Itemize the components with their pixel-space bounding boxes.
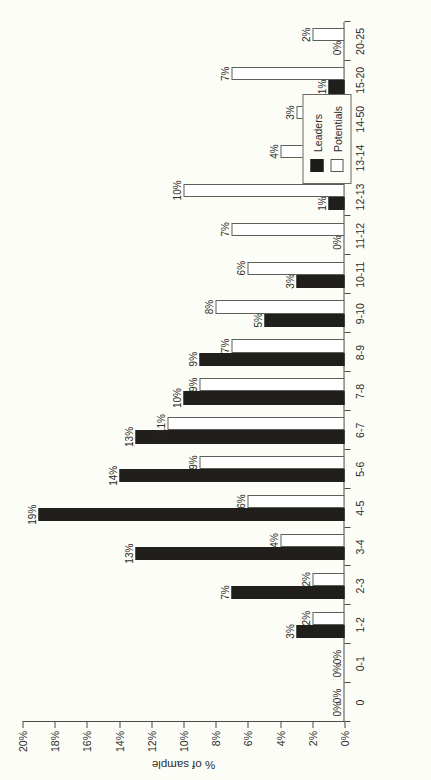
legend-swatch-potentials	[330, 159, 343, 172]
bar-potentials-9-10[interactable]: 8%	[215, 300, 344, 313]
bar-group: 5%8%	[215, 294, 344, 333]
category-axis-tick	[344, 643, 350, 644]
bar-group: 3%6%	[247, 255, 344, 294]
value-axis-tick-label: 14%	[113, 731, 125, 752]
category-axis-label: 1-2	[353, 617, 365, 632]
value-axis-tick	[183, 722, 184, 728]
category-axis-label: 5-6	[353, 462, 365, 477]
bar-value-label: 1%	[316, 196, 327, 210]
bar-leaders-9-10[interactable]: 5%	[264, 314, 345, 327]
bar-group: 0%2%	[312, 22, 344, 61]
category-axis-tick	[344, 604, 350, 605]
bar-value-label: 6%	[235, 494, 246, 508]
value-axis-tick-label: 18%	[48, 731, 60, 752]
value-axis-tick	[86, 722, 87, 728]
bar-potentials-10-11[interactable]: 6%	[247, 262, 344, 275]
category-axis-tick	[344, 565, 350, 566]
bar-value-label: 11%	[155, 414, 166, 433]
category-axis-tick	[344, 60, 350, 61]
category-axis-tick	[344, 371, 350, 372]
bar-leaders-8-9[interactable]: 9%	[199, 353, 344, 366]
category-axis-label: 2-3	[353, 578, 365, 593]
category-axis-tick	[344, 293, 350, 294]
category-axis-tick	[344, 682, 350, 683]
bar-group: 13%11%	[135, 411, 344, 450]
bar-potentials-5-6[interactable]: 9%	[199, 456, 344, 469]
bar-potentials-2-3[interactable]: 2%	[312, 573, 344, 586]
bar-potentials-4-5[interactable]: 6%	[247, 495, 344, 508]
value-axis-tick	[215, 722, 216, 728]
bar-potentials-7-8[interactable]: 9%	[199, 378, 344, 391]
bar-leaders-15-20[interactable]: 1%	[328, 80, 344, 93]
bar-leaders-5-6[interactable]: 14%	[119, 469, 344, 482]
bar-value-label: 4%	[268, 533, 279, 547]
bar-value-label: 10%	[171, 388, 182, 408]
bar-value-label: 0%	[331, 650, 342, 664]
bar-value-label: 13%	[123, 544, 134, 564]
bar-value-label: 7%	[219, 339, 230, 353]
category-axis-tick	[344, 332, 350, 333]
bar-value-label: 13%	[123, 427, 134, 447]
category-axis-label: 0	[353, 700, 365, 706]
plot-area: 0%2%4%6%8%10%12%14%16%18%20%0%0%00%0%0-1…	[22, 22, 344, 722]
bar-potentials-8-9[interactable]: 7%	[231, 339, 344, 352]
category-axis-label: 12-13	[353, 184, 365, 211]
bar-leaders-1-2[interactable]: 3%	[296, 625, 344, 638]
bar-value-label: 0%	[331, 41, 342, 55]
bar-leaders-10-11[interactable]: 3%	[296, 275, 344, 288]
bar-potentials-20-25[interactable]: 2%	[312, 28, 344, 41]
bar-value-label: 0%	[331, 663, 342, 677]
bar-leaders-3-4[interactable]: 13%	[135, 547, 344, 560]
bar-value-label: 8%	[203, 300, 214, 314]
category-axis-label: 9-10	[353, 303, 365, 324]
value-axis-tick-label: 0%	[338, 731, 350, 746]
value-axis-tick	[151, 722, 152, 728]
bar-potentials-3-4[interactable]: 4%	[280, 534, 344, 547]
bar-value-label: 14%	[107, 466, 118, 486]
category-axis-label: 20-25	[353, 28, 365, 55]
bar-potentials-12-13[interactable]: 10%	[183, 184, 344, 197]
category-axis-label: 0-1	[353, 656, 365, 671]
bar-group: 19%6%	[38, 489, 344, 528]
value-axis-tick-label: 2%	[306, 731, 318, 746]
bar-value-label: 9%	[187, 455, 198, 469]
value-axis-tick-label: 20%	[16, 731, 28, 752]
bar-value-label: 1%	[316, 80, 327, 94]
bar-leaders-4-5[interactable]: 19%	[38, 508, 344, 521]
category-axis-label: 3-4	[353, 539, 365, 554]
category-axis-tick	[344, 410, 350, 411]
legend-item-leaders: Leaders	[310, 106, 323, 172]
bar-leaders-7-8[interactable]: 10%	[183, 391, 344, 404]
value-axis-tick-label: 8%	[209, 731, 221, 746]
category-axis-tick	[344, 215, 350, 216]
bar-leaders-2-3[interactable]: 7%	[231, 586, 344, 599]
bar-value-label: 5%	[252, 313, 263, 327]
category-axis-tick	[344, 254, 350, 255]
category-axis-label: 15-20	[353, 67, 365, 94]
bar-value-label: 0%	[331, 702, 342, 716]
legend-label-leaders: Leaders	[311, 114, 323, 152]
value-axis-tick-label: 4%	[274, 731, 286, 746]
value-axis-tick-label: 10%	[177, 731, 189, 752]
category-axis-tick	[344, 449, 350, 450]
bar-group: 14%9%	[119, 450, 344, 489]
bar-value-label: 19%	[26, 505, 37, 525]
category-axis-label: 8-9	[353, 345, 365, 360]
bar-value-label: 2%	[300, 572, 311, 586]
bar-potentials-15-20[interactable]: 7%	[231, 67, 344, 80]
bar-leaders-12-13[interactable]: 1%	[328, 197, 344, 210]
bar-value-label: 2%	[300, 28, 311, 42]
bar-group: 13%4%	[135, 528, 344, 567]
value-axis-title: % of sample	[22, 756, 344, 774]
category-axis-label: 13-14	[353, 145, 365, 172]
legend-label-potentials: Potentials	[331, 106, 343, 152]
value-axis-tick	[344, 722, 345, 728]
bar-value-label: 3%	[284, 274, 295, 288]
value-axis-tick	[119, 722, 120, 728]
bar-potentials-6-7[interactable]: 11%	[167, 417, 344, 430]
category-axis-tick	[344, 488, 350, 489]
bar-potentials-1-2[interactable]: 2%	[312, 612, 344, 625]
bar-potentials-11-12[interactable]: 7%	[231, 223, 344, 236]
value-axis-tick-label: 6%	[241, 731, 253, 746]
bar-value-label: 2%	[300, 611, 311, 625]
